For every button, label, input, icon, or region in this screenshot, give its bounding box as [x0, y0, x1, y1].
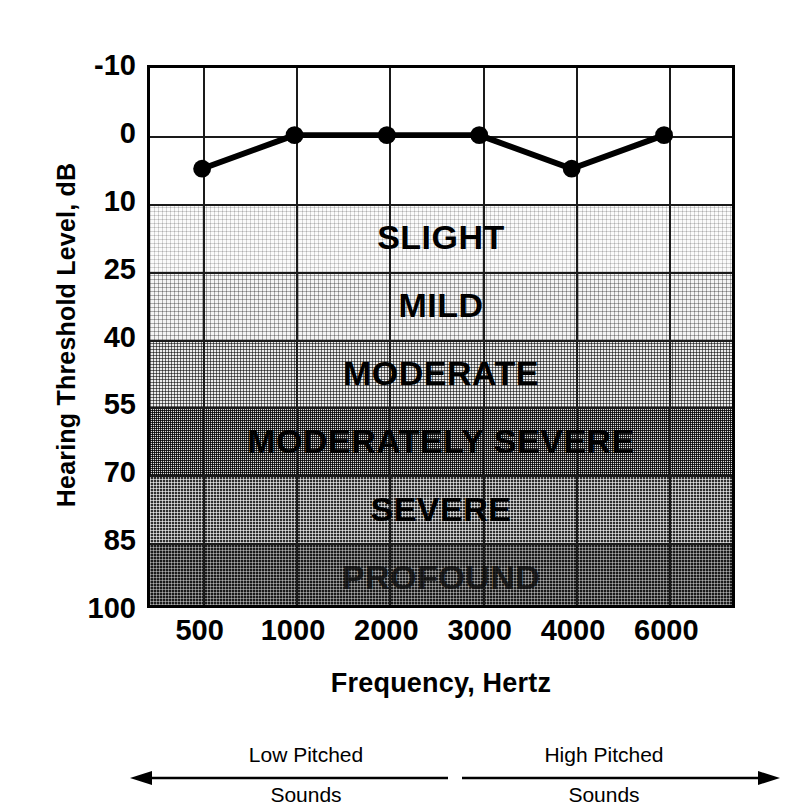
severity-band: PROFOUND: [150, 543, 732, 608]
x-axis-title: Frequency, Hertz: [147, 668, 735, 699]
severity-band: SLIGHT: [150, 204, 732, 272]
y-tick-label: 55: [44, 390, 136, 419]
low-pitched-line1: Low Pitched: [130, 742, 448, 768]
grid-line-vertical: [203, 68, 205, 605]
y-tick-label: 40: [44, 322, 136, 351]
y-tick-label: -10: [44, 51, 136, 80]
audiogram-chart: Hearing Threshold Level, dB -10010254055…: [0, 0, 797, 810]
grid-line-horizontal: [150, 543, 732, 545]
x-tick-label: 3000: [447, 616, 512, 645]
band-label: SLIGHT: [377, 218, 505, 257]
low-pitched-line2: Sounds: [130, 782, 448, 808]
y-tick-label: 0: [44, 118, 136, 147]
x-tick-label: 4000: [541, 616, 606, 645]
grid-line-horizontal: [150, 204, 732, 206]
y-tick-label: 100: [44, 594, 136, 623]
band-label: MODERATELY SEVERE: [247, 422, 635, 461]
grid-line-horizontal: [150, 340, 732, 342]
band-label: SEVERE: [371, 490, 512, 529]
severity-band: [150, 136, 732, 204]
grid-line-vertical: [669, 68, 671, 605]
y-axis-tick-labels: -100102540557085100: [40, 0, 136, 810]
band-label: PROFOUND: [342, 558, 541, 597]
band-texture: [150, 68, 732, 136]
x-axis-tick-labels: 50010002000300040006000: [147, 616, 735, 656]
x-tick-label: 2000: [354, 616, 419, 645]
grid-line-horizontal: [150, 475, 732, 477]
y-tick-label: 10: [44, 186, 136, 215]
y-tick-label: 85: [44, 526, 136, 555]
grid-line-vertical: [576, 68, 578, 605]
plot-area: SLIGHTMILDMODERATEMODERATELY SEVERESEVER…: [147, 65, 735, 608]
annotation-high-pitched: High Pitched Sounds: [462, 742, 780, 808]
high-pitched-line1: High Pitched: [462, 742, 780, 768]
severity-band: MODERATELY SEVERE: [150, 407, 732, 475]
grid-line-horizontal: [150, 407, 732, 409]
x-tick-label: 500: [175, 616, 223, 645]
grid-line-vertical: [296, 68, 298, 605]
y-tick-label: 70: [44, 458, 136, 487]
y-tick-label: 25: [44, 254, 136, 283]
severity-band: [150, 68, 732, 136]
band-texture: [150, 136, 732, 204]
grid-line-horizontal: [150, 272, 732, 274]
band-label: MODERATE: [343, 354, 539, 393]
severity-band: SEVERE: [150, 475, 732, 543]
severity-band: MODERATE: [150, 340, 732, 408]
band-label: MILD: [398, 286, 483, 325]
x-tick-label: 1000: [261, 616, 326, 645]
grid-line-horizontal: [150, 136, 732, 138]
x-tick-label: 6000: [634, 616, 699, 645]
annotation-low-pitched: Low Pitched Sounds: [130, 742, 448, 808]
severity-band: MILD: [150, 272, 732, 340]
high-pitched-line2: Sounds: [462, 782, 780, 808]
